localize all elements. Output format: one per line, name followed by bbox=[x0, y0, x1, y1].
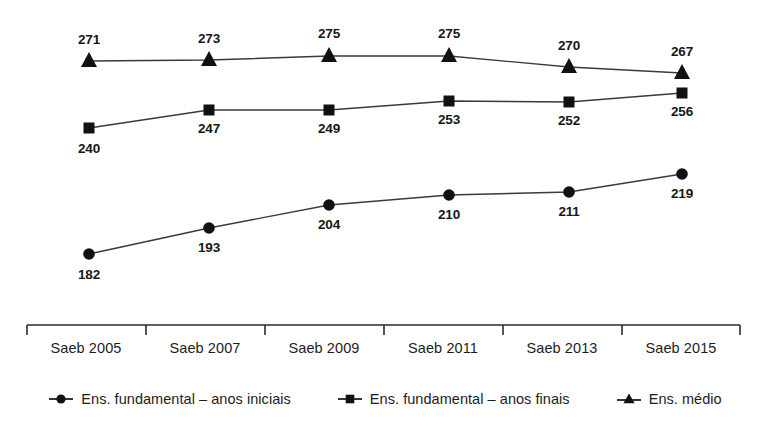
circle-marker-icon bbox=[48, 392, 74, 406]
series-markers-medio bbox=[81, 47, 690, 79]
data-label-medio-2011: 275 bbox=[438, 27, 460, 41]
x-axis-label-2015: Saeb 2015 bbox=[645, 341, 716, 356]
legend-label-iniciais: Ens. fundamental – anos iniciais bbox=[81, 392, 291, 407]
data-label-iniciais-2011: 210 bbox=[438, 208, 460, 222]
x-axis-label-2007: Saeb 2007 bbox=[169, 341, 240, 356]
series-line-iniciais bbox=[89, 174, 682, 254]
data-label-finais-2009: 249 bbox=[318, 122, 340, 136]
x-axis-label-2005: Saeb 2005 bbox=[50, 341, 121, 356]
series-markers-finais bbox=[84, 88, 688, 134]
data-label-iniciais-2009: 204 bbox=[318, 218, 340, 232]
x-axis: Saeb 2005 Saeb 2007 Saeb 2009 Saeb 2011 … bbox=[0, 318, 770, 378]
data-label-iniciais-2015: 219 bbox=[671, 187, 693, 201]
legend-item-medio: Ens. médio bbox=[616, 392, 722, 407]
data-label-iniciais-2007: 193 bbox=[198, 241, 220, 255]
data-label-medio-2015: 267 bbox=[671, 45, 693, 59]
x-axis-rule bbox=[0, 318, 770, 338]
data-label-iniciais-2013: 211 bbox=[558, 205, 579, 219]
legend-label-finais: Ens. fundamental – anos finais bbox=[370, 392, 570, 407]
series-markers-iniciais bbox=[83, 168, 688, 260]
legend-item-finais: Ens. fundamental – anos finais bbox=[337, 392, 570, 407]
plot-area: 271 273 275 275 270 267 240 247 249 253 … bbox=[0, 0, 770, 320]
square-marker-icon bbox=[337, 392, 363, 406]
series-line-medio bbox=[89, 56, 682, 73]
data-label-medio-2005: 271 bbox=[78, 33, 100, 47]
plot-svg bbox=[0, 0, 770, 320]
triangle-marker-icon bbox=[616, 392, 642, 406]
x-axis-label-2011: Saeb 2011 bbox=[408, 341, 478, 356]
data-label-medio-2007: 273 bbox=[198, 32, 220, 46]
data-label-finais-2011: 253 bbox=[438, 113, 460, 127]
legend-item-iniciais: Ens. fundamental – anos iniciais bbox=[48, 392, 291, 407]
legend-label-medio: Ens. médio bbox=[649, 392, 722, 407]
data-label-medio-2009: 275 bbox=[318, 27, 340, 41]
chart-legend: Ens. fundamental – anos iniciais Ens. fu… bbox=[0, 382, 770, 416]
data-label-finais-2015: 256 bbox=[671, 105, 693, 119]
data-label-finais-2013: 252 bbox=[558, 114, 580, 128]
series-line-finais bbox=[89, 93, 682, 128]
x-axis-label-2013: Saeb 2013 bbox=[526, 341, 597, 356]
saeb-line-chart: 271 273 275 275 270 267 240 247 249 253 … bbox=[0, 0, 770, 433]
x-axis-label-2009: Saeb 2009 bbox=[288, 341, 359, 356]
data-label-finais-2007: 247 bbox=[198, 122, 220, 136]
data-label-finais-2005: 240 bbox=[78, 142, 100, 156]
data-label-iniciais-2005: 182 bbox=[78, 268, 100, 282]
data-label-medio-2013: 270 bbox=[558, 39, 580, 53]
